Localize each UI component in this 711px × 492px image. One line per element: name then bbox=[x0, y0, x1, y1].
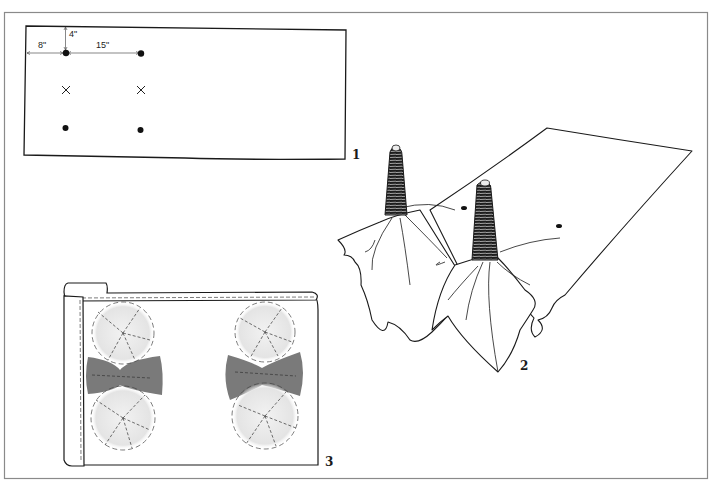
cloth-outline bbox=[24, 26, 346, 159]
thread-cone-left bbox=[385, 147, 407, 215]
diagram-canvas: 8" 4" 15" 1 2 3 bbox=[0, 0, 711, 492]
dimension-label-top: 4" bbox=[69, 29, 77, 39]
dimension-label-left: 8" bbox=[38, 40, 46, 50]
cone-tip bbox=[481, 180, 490, 186]
tie-point-dot bbox=[138, 127, 144, 133]
panel-1-flat-layout bbox=[24, 26, 346, 159]
tie-point-dot bbox=[63, 50, 69, 56]
cloth-roll-top bbox=[64, 283, 317, 301]
panel-number-2: 2 bbox=[520, 359, 528, 373]
panel-number-1: 1 bbox=[352, 148, 360, 162]
panel-number-3: 3 bbox=[325, 455, 333, 469]
tie-point-dot bbox=[461, 206, 467, 210]
tie-point-dot bbox=[63, 125, 69, 131]
tie-point-dot bbox=[138, 50, 144, 56]
panel-3-dyed-cloth bbox=[64, 283, 318, 466]
dye-pattern-left bbox=[86, 302, 163, 450]
tie-point-dot bbox=[556, 224, 562, 228]
cone-tip bbox=[392, 145, 400, 151]
dimension-label-spacing: 15" bbox=[96, 40, 109, 50]
diagram-svg bbox=[0, 0, 711, 492]
panel-2-bound-cloth bbox=[338, 128, 692, 372]
dye-pattern-right bbox=[225, 302, 303, 449]
